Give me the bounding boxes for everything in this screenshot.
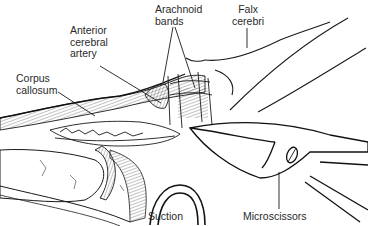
label-suction: Suction (148, 211, 183, 223)
label-corpus-callosum: Corpus callosum (16, 73, 57, 96)
leader-arachnoid-band-1 (163, 27, 173, 82)
surgical-illustration: Anterior cerebral artery Arachnoid bands… (0, 0, 368, 226)
lower-brain-drawing (0, 146, 146, 226)
label-anterior-cerebral-artery: Anterior cerebral artery (70, 25, 108, 60)
label-arachnoid-bands: Arachnoid bands (155, 4, 202, 27)
line-art (0, 0, 368, 226)
corpus-callosum-drawing (50, 121, 180, 146)
falx-cerebri-drawing (186, 18, 366, 112)
label-falx-cerebri: Falx cerebri (232, 4, 264, 27)
label-microscissors: Microscissors (243, 211, 307, 223)
